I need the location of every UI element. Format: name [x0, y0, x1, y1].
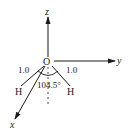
oxygen-atom: O	[43, 56, 50, 67]
hydrogen-atom-left: H	[15, 86, 22, 97]
y-axis-label: y	[116, 55, 122, 66]
bond-length-left: 1.0	[18, 65, 30, 75]
diagram-svg: z y x O H H 1.0 1.0 104.5°	[0, 0, 132, 139]
z-axis-label: z	[44, 6, 49, 17]
hydrogen-atom-right: H	[67, 86, 74, 97]
h2o-diagram: z y x O H H 1.0 1.0 104.5°	[0, 0, 132, 139]
bond-length-right: 1.0	[66, 65, 78, 75]
bond-angle-label: 104.5°	[37, 80, 61, 90]
x-axis-label: x	[9, 119, 15, 130]
